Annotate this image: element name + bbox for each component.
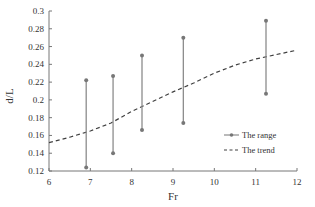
range-marker-low <box>111 151 115 155</box>
x-tick-label: 7 <box>88 177 93 187</box>
x-tick-label: 12 <box>293 177 302 187</box>
y-tick-label: 0.16 <box>28 130 44 140</box>
range-marker-high <box>140 53 144 57</box>
x-axis-label: Fr <box>168 190 178 202</box>
range-marker-high <box>181 36 185 40</box>
y-tick-label: 0.22 <box>28 77 44 87</box>
range-marker-high <box>111 74 115 78</box>
y-tick-label: 0.3 <box>33 6 45 16</box>
y-tick-label: 0.26 <box>28 42 44 52</box>
y-tick-label: 0.18 <box>28 113 44 123</box>
range-marker-low <box>181 121 185 125</box>
y-tick-label: 0.14 <box>28 148 44 158</box>
legend-range-label: The range <box>242 130 276 140</box>
range-marker-low <box>264 92 268 96</box>
x-tick-label: 6 <box>47 177 52 187</box>
x-tick-label: 9 <box>171 177 176 187</box>
y-tick-label: 0.12 <box>28 166 44 176</box>
legend-range-marker <box>230 133 234 137</box>
range-marker-high <box>264 19 268 23</box>
y-tick-label: 0.2 <box>33 95 44 105</box>
y-tick-label: 0.28 <box>28 24 44 34</box>
y-tick-label: 0.24 <box>28 59 44 69</box>
chart: 67891011120.120.140.160.180.20.220.240.2… <box>0 0 315 207</box>
range-marker-low <box>84 165 88 169</box>
axes: 67891011120.120.140.160.180.20.220.240.2… <box>28 6 301 187</box>
y-axis-label: d/L <box>3 88 15 104</box>
x-tick-label: 8 <box>129 177 134 187</box>
range-marker-low <box>140 128 144 132</box>
range-marker-high <box>84 78 88 82</box>
legend-trend-label: The trend <box>242 145 276 155</box>
legend: The rangeThe trend <box>224 130 276 155</box>
x-tick-label: 10 <box>210 177 220 187</box>
x-tick-label: 11 <box>251 177 260 187</box>
